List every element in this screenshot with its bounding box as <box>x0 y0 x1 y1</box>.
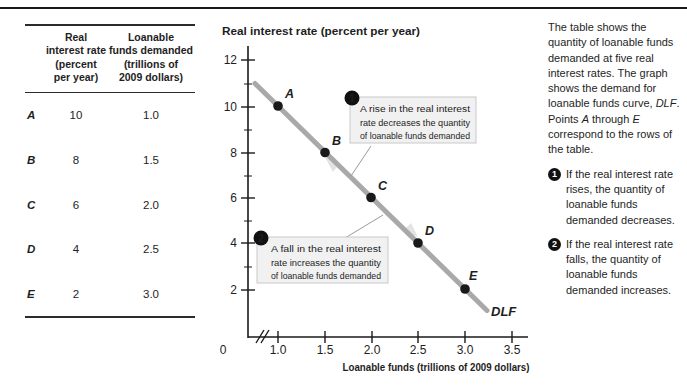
row-label: C <box>25 199 45 211</box>
callout-text-line: of loanable funds demanded <box>360 130 470 141</box>
note-number-badge: 2 <box>548 238 561 251</box>
callout-text-line: of loanable funds demanded <box>271 270 381 281</box>
row-funds-value: 2.0 <box>107 199 195 211</box>
caption-paragraph: The table shows the quantity of loanable… <box>548 20 684 158</box>
caption-note-1: 1 If the real interest rate rises, the q… <box>548 167 684 228</box>
callout-number: 2 <box>258 233 264 244</box>
point-label: C <box>378 179 388 193</box>
loanable-funds-table: Real interest rate (percent per year) Lo… <box>25 24 195 318</box>
callout-leader-line <box>351 146 371 176</box>
x-tick-label: 3.0 <box>457 343 474 357</box>
callout-fall: 2 A fall in the real interest rate incre… <box>254 215 389 283</box>
y-tick-label: 10 <box>224 100 238 114</box>
note-text: If the real interest rate rises, the qua… <box>566 167 684 228</box>
note-text: If the real interest rate falls, the qua… <box>566 237 684 298</box>
header-line: (percent <box>45 58 107 72</box>
point-label: B <box>332 134 341 148</box>
y-axis-title: Real interest rate (percent per year) <box>222 25 420 37</box>
x-tick-label: 3.5 <box>504 343 521 357</box>
point-A-dot <box>273 101 283 111</box>
point-D-dot <box>413 238 423 248</box>
x-axis-title: Loanable funds (trillions of 2009 dollar… <box>343 361 530 373</box>
x-tick-labels: 0 1.0 1.5 2.0 2.5 3.0 3.5 <box>220 343 521 357</box>
x-tick-label: 1.5 <box>317 343 334 357</box>
table-row: A 10 1.0 <box>25 93 195 138</box>
point-label: D <box>425 224 434 238</box>
figure-top-rule <box>0 7 687 9</box>
chart-svg: Real interest rate (percent per year) DL… <box>215 16 545 382</box>
y-tick-label: 8 <box>230 146 237 160</box>
x-axis <box>248 330 528 343</box>
x-tick-label: 1.0 <box>270 343 287 357</box>
figure-page: Real interest rate (percent per year) Lo… <box>0 0 687 386</box>
row-label: B <box>25 154 45 166</box>
x-tick-label: 2.5 <box>410 343 427 357</box>
callout-text-line: rate decreases the quantity <box>360 117 470 128</box>
row-rate-value: 6 <box>45 199 107 211</box>
demand-for-loanable-funds-chart: Real interest rate (percent per year) DL… <box>215 16 545 382</box>
header-line: funds demanded <box>107 44 195 58</box>
callout-rise: 1 A rise in the real interest rate decre… <box>345 91 477 177</box>
point-E-dot <box>460 284 470 294</box>
header-line: interest rate <box>45 44 107 58</box>
row-funds-value: 1.5 <box>107 154 195 166</box>
figure-caption-column: The table shows the quantity of loanable… <box>548 20 684 298</box>
table-row: E 2 3.0 <box>25 272 195 317</box>
header-line: (trillions of <box>107 58 195 72</box>
table-bottom-rule <box>25 316 195 318</box>
row-rate-value: 4 <box>45 243 107 255</box>
point-B-dot <box>320 148 330 158</box>
row-rate-value: 2 <box>45 288 107 300</box>
row-label: A <box>25 109 45 121</box>
y-tick-label: 12 <box>224 53 238 67</box>
callout-leader-line <box>345 215 383 238</box>
header-line: 2009 dollars) <box>107 71 195 85</box>
x-tick-label: 2.0 <box>364 343 381 357</box>
origin-label: 0 <box>220 343 227 357</box>
y-tick-labels: 12 10 8 6 4 2 <box>224 53 238 297</box>
y-axis <box>241 46 255 338</box>
row-funds-value: 1.0 <box>107 109 195 121</box>
row-label: E <box>25 288 45 300</box>
row-rate-value: 8 <box>45 154 107 166</box>
table-header-funds: Loanable funds demanded (trillions of 20… <box>107 31 195 85</box>
caption-note-2: 2 If the real interest rate falls, the q… <box>548 237 684 298</box>
point-label: A <box>284 87 294 101</box>
callout-text-line: A rise in the real interest <box>360 103 470 114</box>
callout-text-line: rate increases the quantity <box>271 257 381 268</box>
table-header-row: Real interest rate (percent per year) Lo… <box>25 26 195 92</box>
callout-text-line: A fall in the real interest <box>271 243 381 254</box>
table-row: C 6 2.0 <box>25 182 195 227</box>
row-rate-value: 10 <box>45 109 107 121</box>
callout-number: 1 <box>349 93 355 104</box>
header-line: Loanable <box>107 31 195 45</box>
point-C-dot <box>366 193 376 203</box>
header-line: per year) <box>45 71 107 85</box>
table-row: B 8 1.5 <box>25 138 195 183</box>
table-header-rate: Real interest rate (percent per year) <box>45 31 107 85</box>
row-funds-value: 2.5 <box>107 243 195 255</box>
y-tick-label: 2 <box>230 283 237 297</box>
header-line: Real <box>45 31 107 45</box>
note-number-badge: 1 <box>548 168 561 181</box>
table-row: D 4 2.5 <box>25 227 195 272</box>
row-label: D <box>25 243 45 255</box>
point-label: E <box>469 269 478 283</box>
dlf-curve-label: DLF <box>491 304 517 319</box>
y-tick-label: 4 <box>230 236 237 250</box>
y-tick-label: 6 <box>230 191 237 205</box>
row-funds-value: 3.0 <box>107 288 195 300</box>
